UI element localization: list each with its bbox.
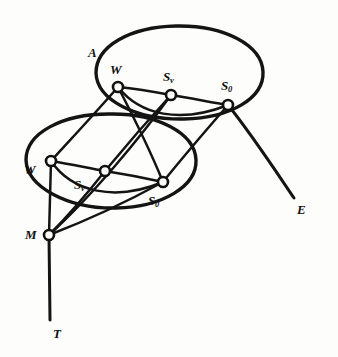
edge-upper-w-to-lower-w xyxy=(51,87,118,161)
node-label-upper-w: W xyxy=(110,63,122,76)
node-upper-w[interactable] xyxy=(113,82,123,92)
node-upper-sv[interactable] xyxy=(166,90,176,100)
node-label-upper-sv: Sv xyxy=(163,70,174,85)
node-label-lower-s0: S0 xyxy=(148,194,159,209)
node-label-lower-w: W xyxy=(24,163,36,176)
edge-upper-w-to-lower-sv-cross xyxy=(118,87,163,182)
edge-upper-w-to-upper-sv xyxy=(118,87,171,95)
node-lower-sv[interactable] xyxy=(100,166,110,176)
edge-upper-sv-to-upper-s0 xyxy=(171,95,228,105)
ray-to-terminal-e xyxy=(228,105,294,198)
ray-to-terminal-t xyxy=(49,235,50,320)
terminal-label-e: E xyxy=(297,203,306,216)
node-m[interactable] xyxy=(44,230,54,240)
node-upper-s0[interactable] xyxy=(223,100,233,110)
terminal-label-t: T xyxy=(53,327,61,340)
node-lower-s0[interactable] xyxy=(158,177,168,187)
edge-lower-sv-to-lower-s0 xyxy=(105,171,163,182)
node-lower-w[interactable] xyxy=(46,156,56,166)
node-label-lower-sv: Sv xyxy=(74,178,85,193)
region-label-a: A xyxy=(88,46,97,59)
diagram-svg xyxy=(0,0,338,357)
edge-node-m-to-lower-w xyxy=(49,161,51,235)
node-label-m: M xyxy=(25,228,37,241)
figure-canvas: A W Sv S0 W Sv S0 M E T xyxy=(0,0,338,357)
node-label-upper-s0: S0 xyxy=(221,79,232,94)
